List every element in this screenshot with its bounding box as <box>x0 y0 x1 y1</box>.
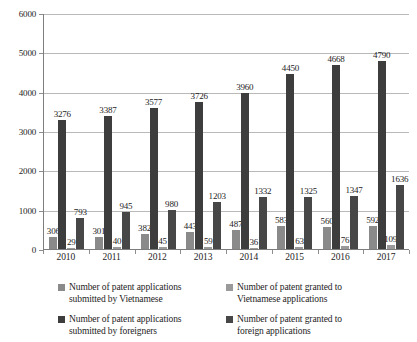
bar[interactable]: 4450 <box>286 74 294 249</box>
y-tick-label: 6000 <box>19 10 36 19</box>
bar[interactable]: 4668 <box>332 65 340 249</box>
bar[interactable]: 1636 <box>396 185 404 249</box>
bar[interactable]: 1332 <box>259 197 267 249</box>
bar-value-label: 1636 <box>391 175 408 184</box>
bar[interactable]: 793 <box>76 218 84 249</box>
plot-wrapper: 0100020003000400050006000 30632762979330… <box>0 0 417 276</box>
y-tick-label: 3000 <box>19 128 36 137</box>
bar-value-label: 59 <box>204 237 213 246</box>
bar-value-label: 3577 <box>145 98 162 107</box>
y-tick-label: 2000 <box>19 167 36 176</box>
x-tick-label: 2014 <box>226 252 272 263</box>
bar-value-label: 4450 <box>282 64 299 73</box>
bar-value-label: 63 <box>295 237 304 246</box>
bar-value-label: 29 <box>67 238 76 247</box>
legend-swatch-icon <box>58 284 65 291</box>
legend-label-line1: Number of patent granted to <box>237 282 342 292</box>
bar-group: 306327629793 <box>44 14 90 249</box>
bar-group: 59247901091636 <box>363 14 409 249</box>
bar-value-label: 3276 <box>54 110 71 119</box>
bar[interactable]: 560 <box>323 227 331 249</box>
bar-group: 5604668761347 <box>318 14 364 249</box>
x-tick-label: 2010 <box>43 252 89 263</box>
x-tick-label: 2017 <box>363 252 409 263</box>
legend-item[interactable]: Number of patent applicationssubmitted b… <box>58 281 226 305</box>
bar-group: 5834450631325 <box>272 14 318 249</box>
legend-label: Number of patent granted toforeign appli… <box>237 313 342 337</box>
bar-value-label: 45 <box>158 237 167 246</box>
legend-item[interactable]: Number of patent granted toforeign appli… <box>226 313 388 337</box>
bar[interactable]: 29 <box>67 248 75 249</box>
bar-value-label: 1332 <box>254 187 271 196</box>
legend-label-line1: Number of patent applications <box>69 282 181 292</box>
bar[interactable]: 1347 <box>350 196 358 249</box>
bar[interactable]: 3577 <box>150 108 158 249</box>
bar[interactable]: 109 <box>387 245 395 249</box>
bar[interactable]: 945 <box>122 212 130 249</box>
bar[interactable]: 301 <box>95 237 103 249</box>
legend-label: Number of patent applicationssubmitted b… <box>69 281 181 305</box>
x-tick-mark <box>272 250 273 254</box>
bar[interactable]: 3960 <box>241 93 249 249</box>
legend-label: Number of patent granted toVietnamese ap… <box>237 281 342 305</box>
bar[interactable]: 592 <box>369 226 377 249</box>
x-tick-mark <box>363 250 364 254</box>
bar[interactable]: 40 <box>113 247 121 249</box>
bar[interactable]: 59 <box>204 247 212 249</box>
bar[interactable]: 76 <box>341 246 349 249</box>
y-axis: 0100020003000400050006000 <box>0 0 40 276</box>
bar[interactable]: 3726 <box>195 102 203 249</box>
bar-value-label: 3960 <box>236 83 253 92</box>
chart-legend: Number of patent applicationssubmitted b… <box>58 281 388 337</box>
legend-label-line1: Number of patent applications <box>69 314 181 324</box>
bar[interactable]: 3276 <box>58 120 66 249</box>
bar-value-label: 40 <box>113 237 122 246</box>
x-tick-label: 2016 <box>318 252 364 263</box>
y-tick-label: 5000 <box>19 49 36 58</box>
x-tick-mark <box>180 250 181 254</box>
legend-swatch-icon <box>226 316 233 323</box>
bar-value-label: 980 <box>165 200 178 209</box>
bar[interactable]: 4790 <box>378 61 386 249</box>
bar[interactable]: 1325 <box>304 197 312 249</box>
y-tick-label: 0 <box>32 246 36 255</box>
bar-value-label: 76 <box>341 236 350 245</box>
bar[interactable]: 382 <box>141 234 149 249</box>
bar-value-label: 793 <box>74 208 87 217</box>
bar[interactable]: 487 <box>232 230 240 249</box>
bar-value-label: 1347 <box>345 186 362 195</box>
x-tick-mark <box>43 250 44 254</box>
y-tick-label: 4000 <box>19 88 36 97</box>
legend-item[interactable]: Number of patent granted toVietnamese ap… <box>226 281 388 305</box>
bar-group: 301338740945 <box>90 14 136 249</box>
bar[interactable]: 583 <box>277 226 285 249</box>
x-tick-label: 2012 <box>135 252 181 263</box>
x-tick-label: 2015 <box>272 252 318 263</box>
bar-value-label: 1325 <box>300 187 317 196</box>
x-tick-mark <box>89 250 90 254</box>
bar-group: 4873960361332 <box>227 14 273 249</box>
bar[interactable]: 443 <box>186 232 194 249</box>
x-tick-mark <box>226 250 227 254</box>
bar-groups: 3063276297933013387409453823577459804433… <box>44 14 409 249</box>
x-tick-label: 2013 <box>180 252 226 263</box>
bar-value-label: 3387 <box>99 106 116 115</box>
bar-value-label: 4668 <box>327 55 344 64</box>
bar[interactable]: 980 <box>168 210 176 249</box>
legend-item[interactable]: Number of patent applicationssubmitted b… <box>58 313 226 337</box>
legend-swatch-icon <box>58 316 65 323</box>
legend-label-line2: Vietnamese applications <box>237 294 327 304</box>
bar[interactable]: 1203 <box>213 202 221 249</box>
bar[interactable]: 45 <box>159 247 167 249</box>
x-tick-mark <box>135 250 136 254</box>
bar[interactable]: 36 <box>250 248 258 249</box>
bar[interactable]: 306 <box>49 237 57 249</box>
bar[interactable]: 3387 <box>104 116 112 249</box>
x-tick-mark <box>409 250 410 254</box>
legend-label-line2: submitted by Vietnamese <box>69 294 163 304</box>
legend-label-line2: foreign applications <box>237 326 311 336</box>
legend-swatch-icon <box>226 284 233 291</box>
bar-value-label: 945 <box>119 202 132 211</box>
legend-label: Number of patent applicationssubmitted b… <box>69 313 181 337</box>
bar[interactable]: 63 <box>295 247 303 249</box>
